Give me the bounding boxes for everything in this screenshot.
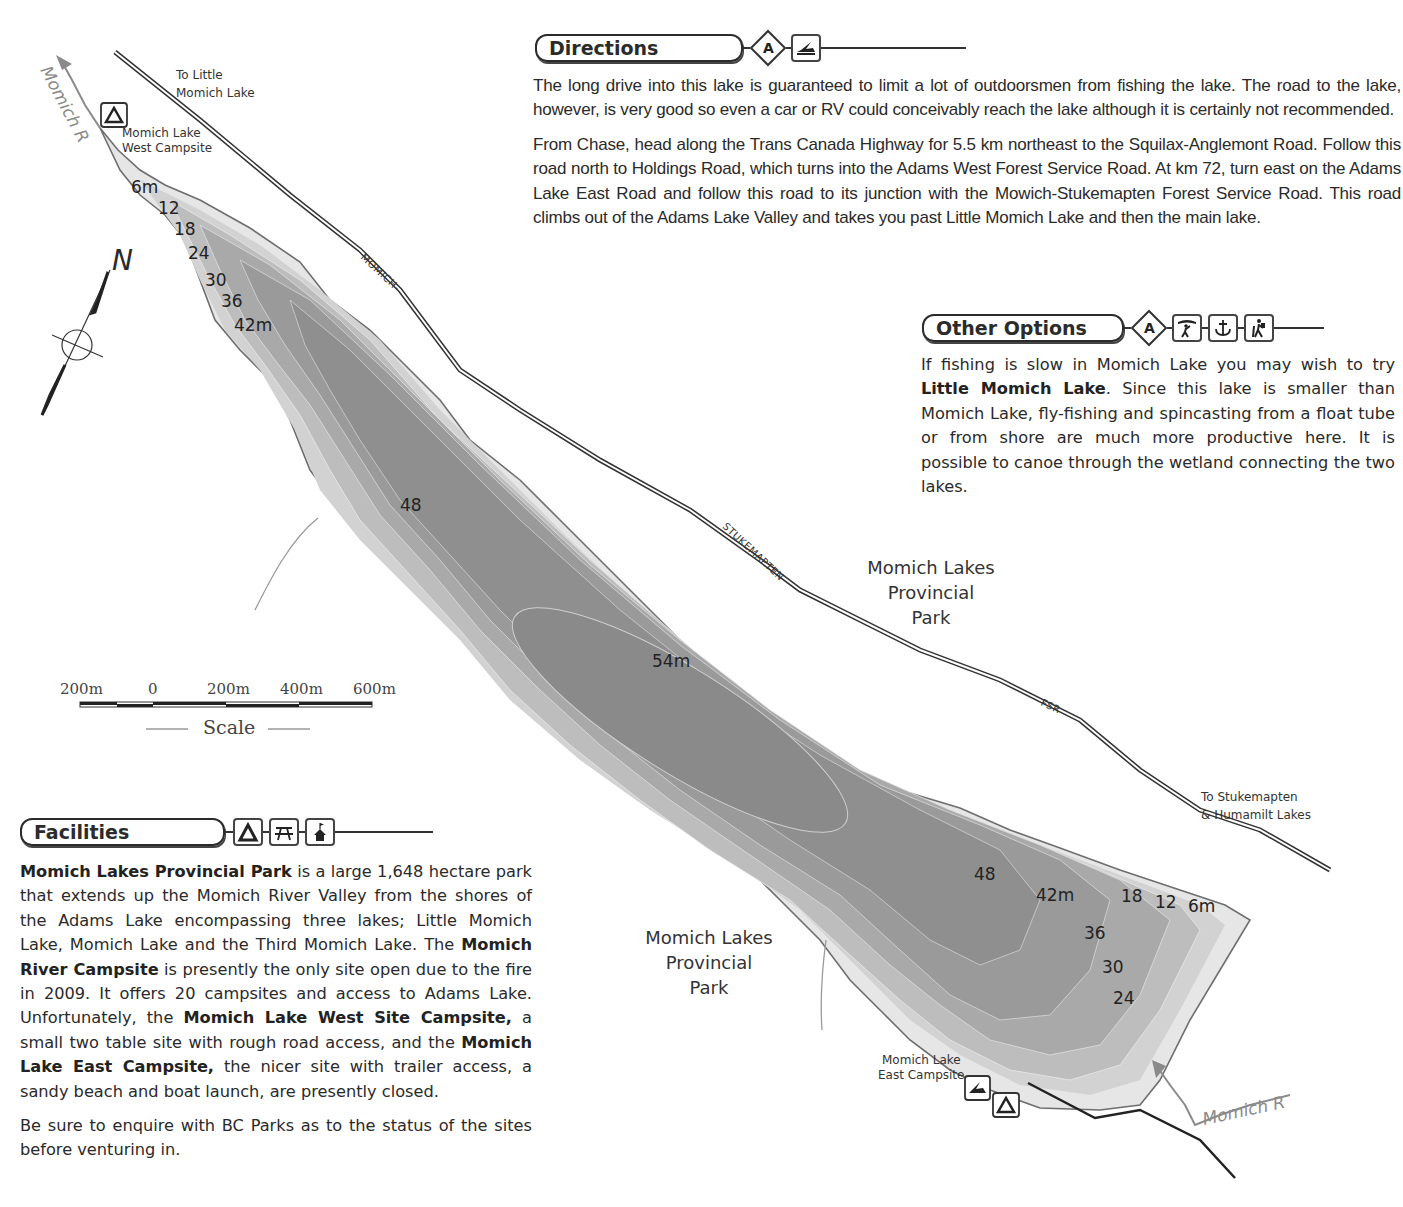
- label-park-north-1: Momich Lakes: [867, 557, 994, 578]
- label-to-stukemapten-2: & Humamilt Lakes: [1201, 808, 1311, 822]
- depth-north-42: 42m: [234, 315, 272, 335]
- depth-south-18: 18: [1121, 886, 1143, 906]
- label-to-stukemapten-1: To Stukemapten: [1200, 790, 1298, 804]
- depth-north-24: 24: [188, 243, 210, 263]
- depth-south-12: 12: [1155, 892, 1177, 912]
- access-badge: A: [750, 30, 787, 67]
- label-park-south-2: Provincial: [666, 952, 753, 973]
- hiking-icon: [1244, 314, 1274, 342]
- depth-center-48: 48: [400, 495, 422, 515]
- scale-tick: 200m: [207, 680, 250, 698]
- facilities-header: Facilities: [20, 816, 433, 848]
- label-west-campsite-1: Momich Lake: [122, 126, 201, 140]
- directions-title: Directions: [535, 34, 743, 62]
- scale-title: Scale: [203, 716, 255, 738]
- label-west-campsite-2: West Campsite: [122, 141, 212, 155]
- facilities-body: Momich Lakes Provincial Park is a large …: [20, 860, 532, 1173]
- canoe-portage-icon: [1172, 314, 1202, 342]
- depth-north-18: 18: [174, 219, 196, 239]
- other-options-header: Other Options A: [922, 312, 1324, 344]
- label-east-campsite-1: Momich Lake: [882, 1053, 961, 1067]
- facilities-paragraph-2: Be sure to enquire with BC Parks as to t…: [20, 1114, 532, 1163]
- facilities-paragraph-1: Momich Lakes Provincial Park is a large …: [20, 860, 532, 1104]
- other-options-body: If fishing is slow in Momich Lake you ma…: [921, 353, 1395, 509]
- boat-launch-icon: [791, 34, 821, 62]
- depth-south-6: 6m: [1188, 896, 1215, 916]
- depth-north-12: 12: [158, 198, 180, 218]
- facilities-title: Facilities: [20, 818, 225, 846]
- directions-body: The long drive into this lake is guarant…: [533, 74, 1401, 240]
- label-road-stukemapten: STUKEMAPTEN: [721, 520, 787, 582]
- anchor-icon: [1208, 314, 1238, 342]
- depth-north-30: 30: [205, 270, 227, 290]
- north-label: N: [112, 244, 133, 277]
- label-park-north-3: Park: [912, 607, 951, 628]
- depth-north-6: 6m: [131, 177, 158, 197]
- west-campsite-marker[interactable]: [101, 103, 127, 127]
- other-options-title: Other Options: [922, 314, 1124, 342]
- stream-south: [821, 940, 826, 1030]
- scale-tick: 200m: [60, 680, 103, 698]
- label-east-campsite-2: East Campsite: [878, 1068, 964, 1082]
- depth-south-36: 36: [1084, 923, 1106, 943]
- stream-west: [255, 518, 318, 610]
- label-park-north-2: Provincial: [888, 582, 975, 603]
- access-badge: A: [1131, 310, 1168, 347]
- depth-center-54: 54m: [652, 651, 690, 671]
- label-river-south: Momich R: [1201, 1092, 1287, 1129]
- scale-tick: 400m: [280, 680, 323, 698]
- depth-south-30: 30: [1102, 957, 1124, 977]
- depth-north-36: 36: [221, 291, 243, 311]
- cabin-icon: [305, 818, 335, 846]
- scale-tick: 600m: [353, 680, 396, 698]
- little-momich-lake-highlight: Little Momich Lake: [921, 379, 1106, 398]
- directions-paragraph: The long drive into this lake is guarant…: [533, 74, 1401, 123]
- depth-south-24: 24: [1113, 988, 1135, 1008]
- label-park-south-1: Momich Lakes: [645, 927, 772, 948]
- picnic-table-icon: [269, 818, 299, 846]
- directions-paragraph: From Chase, head along the Trans Canada …: [533, 133, 1401, 231]
- north-arrow: N: [42, 244, 133, 415]
- scale: 200m 0 200m 400m 600m Scale: [58, 680, 398, 750]
- label-road-momich: MOMICH-: [359, 251, 403, 293]
- depth-south-48: 48: [974, 864, 996, 884]
- depth-south-42: 42m: [1036, 885, 1074, 905]
- tent-icon: [233, 818, 263, 846]
- directions-header: Directions A: [535, 32, 966, 64]
- label-park-south-3: Park: [690, 977, 729, 998]
- label-road-fsr: FSR: [1039, 697, 1062, 716]
- label-to-little-momich-2: Momich Lake: [176, 86, 255, 100]
- scale-tick: 0: [148, 680, 158, 698]
- label-to-little-momich-1: To Little: [175, 68, 223, 82]
